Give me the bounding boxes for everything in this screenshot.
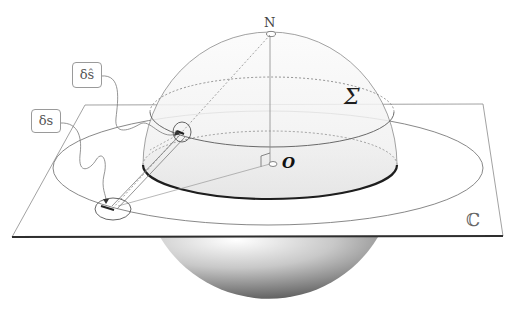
plane-front-edge [12, 236, 503, 237]
riemann-sphere-diagram [0, 0, 514, 313]
plane-label: ℂ [466, 211, 480, 229]
origin-point [269, 162, 277, 167]
delta-s-label: δs [31, 109, 61, 133]
north-pole-label: N [264, 16, 275, 29]
lower-hemisphere [160, 237, 378, 299]
north-pole-point [267, 31, 276, 36]
sphere-label: Σ [344, 86, 360, 108]
origin-label: O [282, 156, 295, 171]
delta-s-hat-label: δŝ [72, 62, 102, 88]
